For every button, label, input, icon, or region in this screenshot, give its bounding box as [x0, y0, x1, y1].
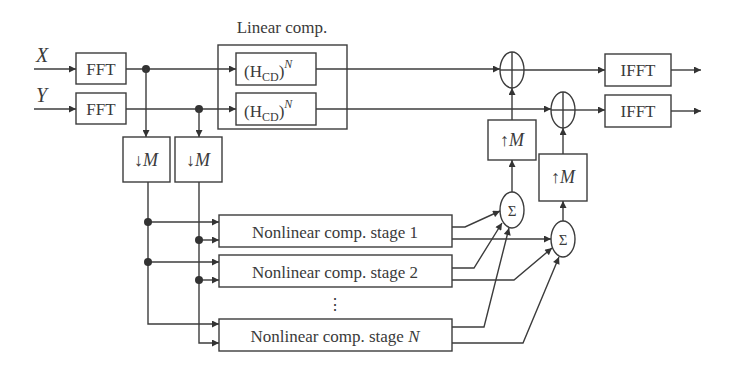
nonlinear-stage-1: Nonlinear comp. stage 1: [219, 215, 452, 247]
input-y-label: Y: [36, 84, 49, 106]
ifft-block-y: IFFT: [605, 95, 671, 127]
adder-x: [500, 52, 524, 88]
adder-y: [551, 92, 575, 128]
svg-text:Nonlinear comp. stage N: Nonlinear comp. stage N: [250, 327, 421, 346]
summer-x: Σ: [500, 192, 524, 228]
svg-text:IFFT: IFFT: [621, 102, 657, 121]
fft-block-y: FFT: [76, 93, 126, 124]
upsample-block-x: ↑M: [488, 120, 536, 160]
svg-text:Nonlinear comp. stage 1: Nonlinear comp. stage 1: [252, 223, 418, 242]
input-x-label: X: [35, 44, 49, 66]
svg-text:Σ: Σ: [559, 232, 568, 248]
ifft-block-x: IFFT: [605, 54, 671, 86]
svg-text:Σ: Σ: [508, 203, 517, 219]
summer-y: Σ: [551, 221, 575, 257]
downsample-block-y: ↓M: [175, 137, 222, 182]
svg-text:FFT: FFT: [86, 60, 116, 79]
svg-text:↑M: ↑M: [551, 167, 576, 187]
block-diagram: X Y FFT FFT Linear comp. (HCD)N (HCD)N: [0, 0, 736, 373]
svg-text:FFT: FFT: [86, 100, 116, 119]
linear-comp-title: Linear comp.: [237, 18, 328, 37]
svg-text:↑M: ↑M: [500, 130, 525, 150]
fft-block-x: FFT: [76, 53, 126, 84]
hcd-block-y: (HCD)N: [236, 93, 316, 125]
stage-ellipsis: ⋮: [327, 296, 343, 313]
svg-text:↓M: ↓M: [186, 150, 211, 170]
nonlinear-stage-2: Nonlinear comp. stage 2: [219, 255, 452, 287]
svg-text:IFFT: IFFT: [621, 61, 657, 80]
nonlinear-stage-n: Nonlinear comp. stage N: [219, 319, 452, 351]
downsample-block-x: ↓M: [123, 137, 170, 182]
hcd-block-x: (HCD)N: [236, 53, 316, 85]
upsample-block-y: ↑M: [539, 154, 587, 201]
svg-text:↓M: ↓M: [134, 150, 159, 170]
svg-text:Nonlinear comp. stage 2: Nonlinear comp. stage 2: [252, 263, 418, 282]
